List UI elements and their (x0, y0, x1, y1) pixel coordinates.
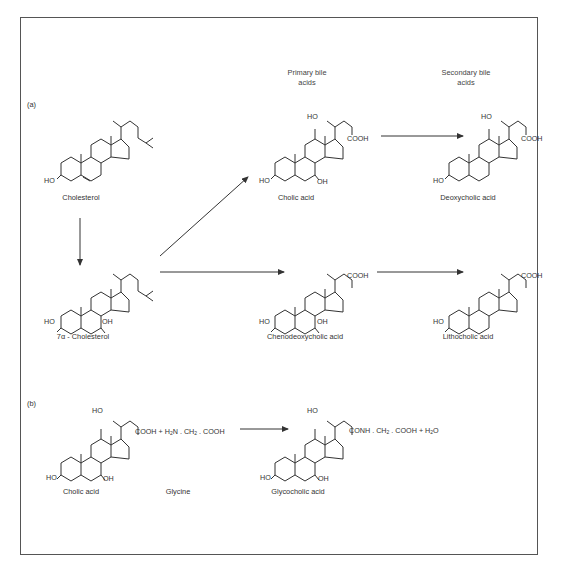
compound-name-glycine: Glycine (166, 488, 191, 495)
compound-name-7a-cholesterol: 7α - Cholesterol (57, 333, 109, 340)
lithocholic-acid-structure (445, 274, 526, 334)
oh-group: OH (317, 318, 328, 325)
oh-group: OH (318, 475, 329, 482)
chenodeoxycholic-acid-structure (271, 274, 352, 334)
ho-group: HO (44, 318, 55, 325)
ho-group: HO (92, 407, 103, 414)
cooh-group: COOH (347, 272, 369, 279)
oh-group: OH (103, 475, 114, 482)
compound-name-glycocholic-acid: Glycocholic acid (271, 488, 324, 495)
compound-name-cholic-acid: Cholic acid (278, 194, 314, 201)
cooh-group: COOH (521, 272, 543, 279)
compound-name-chenodeoxycholic-acid: Chenodeoxycholic acid (267, 333, 343, 340)
compound-name-deoxycholic-acid: Deoxycholic acid (440, 194, 495, 201)
cholesterol-structure (57, 121, 153, 181)
compound-name-cholic-acid-b: Cholic acid (63, 488, 99, 495)
panel-label-b: (b) (27, 400, 36, 407)
ho-group: HO (46, 474, 57, 481)
glycocholic-acid-structure (271, 421, 352, 481)
header-secondary-bile-acids: Secondary bile acids (442, 68, 491, 88)
ho-group: HO (260, 474, 271, 481)
cholic-acid-structure (271, 121, 352, 181)
deoxycholic-acid-structure (445, 121, 526, 181)
ho-group: HO (44, 177, 55, 184)
oh-group: OH (102, 318, 113, 325)
arrow-7a-to-cholic (160, 177, 248, 256)
ho-group: HO (259, 177, 270, 184)
glycocholic-equation: CONH . CH2 . COOH + H2O (349, 427, 439, 435)
glycine-equation: COOH + H2N . CH2 . COOH (135, 428, 225, 436)
compound-name-lithocholic-acid: Lithocholic acid (443, 333, 494, 340)
compound-name-cholesterol: Cholesterol (62, 194, 99, 201)
header-primary-bile-acids: Primary bile acids (287, 68, 326, 88)
ho-group: HO (307, 407, 318, 414)
ho-group: HO (307, 113, 318, 120)
ho-group: HO (433, 177, 444, 184)
cooh-group: COOH (347, 135, 369, 142)
ho-group: HO (433, 318, 444, 325)
panel-label-a: (a) (27, 101, 36, 108)
ho-group: HO (259, 318, 270, 325)
cholic-acid-b-structure (57, 421, 138, 481)
cooh-group: COOH (521, 135, 543, 142)
ho-group: HO (481, 113, 492, 120)
oh-group: OH (317, 178, 328, 185)
